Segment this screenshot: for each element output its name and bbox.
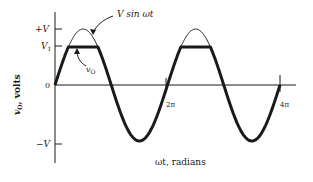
label-zero: 0 — [45, 81, 50, 90]
y-axis-label: vO, volts — [12, 74, 23, 115]
label-v1: V1 — [41, 41, 51, 52]
label-input-curve: V sin ωt — [117, 9, 154, 19]
label-minus-v: −V — [36, 139, 52, 149]
label-plus-v: +V — [35, 24, 51, 34]
label-output-curve: vO — [86, 65, 96, 75]
input-label-arrow — [93, 16, 113, 33]
label-2pi: 2π — [166, 101, 175, 109]
x-axis-label: ωt, radians — [155, 157, 206, 167]
label-4pi: 4π — [280, 101, 289, 109]
clipper-waveform-diagram: +V V1 0 −V 2π 4π V sin ωt vO ωt, radians… — [0, 0, 313, 182]
clipped-output-curve — [55, 47, 280, 141]
svg-text:vO, volts: vO, volts — [12, 74, 23, 115]
arrowhead-icon — [74, 48, 80, 54]
